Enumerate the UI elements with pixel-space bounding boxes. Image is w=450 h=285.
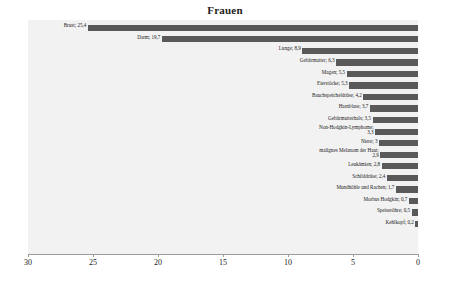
bar-row: Eierstöcke; 5,3 (28, 80, 418, 92)
axis-tick (223, 254, 224, 257)
bar-row: Brust; 25,4 (28, 22, 418, 34)
bar (375, 129, 418, 135)
axis-tick (28, 254, 29, 257)
bar-row: Non-Hodgkin-Lymphome; 3,3 (28, 126, 418, 138)
bar (349, 82, 418, 88)
bar-label: Mundhöhle und Rachen; 1,7 (336, 185, 394, 190)
bar-row: Lunge; 8,9 (28, 45, 418, 57)
axis-tick (288, 254, 289, 257)
bar (387, 175, 418, 181)
axis-tick-label: 20 (143, 258, 173, 267)
bar (363, 94, 418, 100)
bar-row: Leukämien; 2,8 (28, 161, 418, 173)
bar (412, 209, 419, 215)
bar-row: Mundhöhle und Rachen; 1,7 (28, 184, 418, 196)
bar-label: Niere; 3 (361, 139, 378, 144)
axis-tick-label: 25 (78, 258, 108, 267)
axis-tick (158, 254, 159, 257)
bar-label: Brust; 25,4 (64, 23, 87, 28)
axis-tick-label: 5 (338, 258, 368, 267)
bar-label: Gebärmutter; 6,3 (300, 58, 335, 63)
bar-label: Gebärmutterhals; 3,5 (328, 116, 371, 121)
bar (396, 186, 418, 192)
bar (415, 221, 418, 227)
bar-row: malignes Melanom der Haut; 2,9 (28, 149, 418, 161)
bar-label: Schilddrüse; 2,4 (352, 174, 385, 179)
bar-label: Lunge; 8,9 (279, 46, 301, 51)
axis-tick-label: 15 (208, 258, 238, 267)
bar (347, 71, 419, 77)
bar (370, 105, 418, 111)
axis-tick-label: 0 (403, 258, 433, 267)
bar-label: Magen; 5,5 (322, 70, 345, 75)
bar-label: Darm; 19,7 (137, 35, 160, 40)
bar-label: Non-Hodgkin-Lymphome; 3,3 (312, 125, 374, 136)
axis-tick-label: 30 (13, 258, 43, 267)
bar-label: Speiseröhre; 0,5 (377, 208, 410, 213)
bar (409, 198, 418, 204)
bar-row: Kehlkopf; 0,2 (28, 218, 418, 230)
bar-row: Schilddrüse; 2,4 (28, 172, 418, 184)
bar-label: Bauchspeicheldrüse; 4,2 (312, 93, 362, 98)
bar (379, 140, 418, 146)
bar-row: Morbus Hodgkin; 0,7 (28, 195, 418, 207)
bar-row: Darm; 19,7 (28, 34, 418, 46)
bar (302, 48, 418, 54)
axis-tick (353, 254, 354, 257)
plot-area: Brust; 25,4Darm; 19,7Lunge; 8,9Gebärmutt… (28, 20, 418, 254)
bar-row: Gebärmutter; 6,3 (28, 57, 418, 69)
bar (162, 36, 418, 42)
bar-label: malignes Melanom der Haut; 2,9 (317, 148, 379, 159)
axis-tick-label: 10 (273, 258, 303, 267)
bar-row: Bauchspeicheldrüse; 4,2 (28, 91, 418, 103)
bar (382, 163, 418, 169)
bar-row: Magen; 5,5 (28, 68, 418, 80)
bar-row: Harnblase; 3,7 (28, 103, 418, 115)
bar (336, 59, 418, 65)
bar-row: Speiseröhre; 0,5 (28, 207, 418, 219)
bar-label: Morbus Hodgkin; 0,7 (363, 197, 407, 202)
axis-tick (93, 254, 94, 257)
bar (380, 152, 418, 158)
bar-label: Eierstöcke; 5,3 (317, 81, 348, 86)
bar (373, 117, 419, 123)
bar-label: Kehlkopf; 0,2 (386, 220, 414, 225)
bar (88, 25, 418, 31)
chart-title: Frauen (0, 4, 450, 16)
bar-label: Leukämien; 2,8 (348, 162, 380, 167)
chart-container: Frauen Brust; 25,4Darm; 19,7Lunge; 8,9Ge… (0, 0, 450, 285)
axis-tick (418, 254, 419, 257)
bar-label: Harnblase; 3,7 (339, 104, 369, 109)
